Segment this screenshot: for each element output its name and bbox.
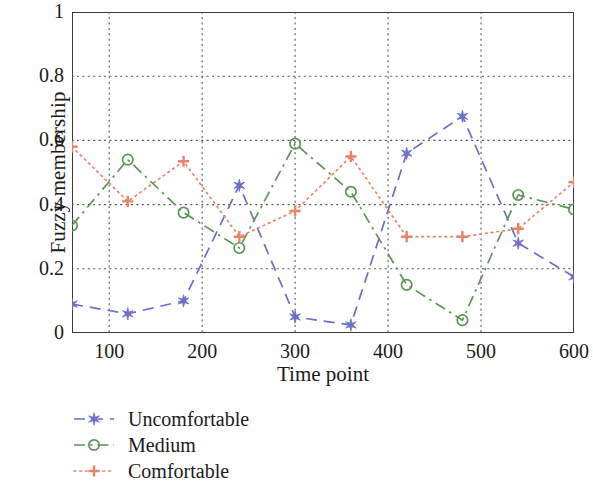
series-line [72,147,574,237]
data-marker-plus [457,231,468,242]
legend-item-comfortable[interactable]: Comfortable [72,458,402,484]
x-axis-tick-labels: 100200300400500600 [0,336,587,364]
legend-item-uncomfortable[interactable]: Uncomfortable [72,406,402,432]
data-marker-star [234,179,245,191]
data-marker-circle [346,187,356,197]
data-marker-circle [569,204,574,214]
data-marker-plus [345,151,356,162]
data-marker-circle [401,280,411,290]
data-marker-star [401,147,412,159]
data-marker-plus [401,231,412,242]
legend-label: Comfortable [128,460,229,482]
legend-item-medium[interactable]: Medium [72,432,402,458]
x-axis-title: Time point [72,362,574,387]
data-marker-circle [178,207,188,217]
series-comfortable [72,141,574,242]
data-marker-star [457,110,468,122]
x-tick-label: 200 [162,340,242,362]
y-tick-label: 0.4 [8,194,64,214]
data-marker-plus [88,465,99,476]
x-tick-label: 300 [255,340,335,362]
legend-swatch-circle-icon [72,434,116,456]
data-marker-circle [123,154,133,164]
x-tick-label: 600 [534,340,593,362]
chart-legend: UncomfortableMediumComfortable [72,406,402,484]
legend-label: Uncomfortable [128,408,249,430]
y-tick-label: 0.6 [8,129,64,149]
series-line [72,116,574,325]
data-marker-star [569,271,574,283]
gridlines [72,12,574,333]
series-uncomfortable [72,110,574,331]
legend-swatch-plus-icon [72,460,116,482]
legend-label: Medium [128,434,196,456]
x-tick-label: 500 [441,340,521,362]
y-tick-label: 1 [8,1,64,21]
legend-swatch-star-icon [72,408,116,430]
data-marker-star [513,237,524,249]
y-tick-label: 0.8 [8,65,64,85]
x-tick-label: 400 [348,340,428,362]
data-marker-plus [122,196,133,207]
y-axis-tick-labels: 00.20.40.60.81 [0,0,64,345]
y-tick-label: 0.2 [8,258,64,278]
x-tick-label: 100 [69,340,149,362]
plot-area [72,12,574,333]
